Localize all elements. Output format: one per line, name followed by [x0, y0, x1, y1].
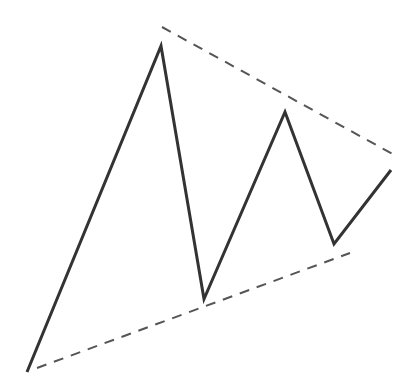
price-zigzag-line — [27, 46, 391, 372]
lower-support-trendline — [37, 253, 350, 368]
triangle-pattern-diagram — [0, 0, 417, 392]
upper-resistance-trendline — [162, 27, 398, 157]
